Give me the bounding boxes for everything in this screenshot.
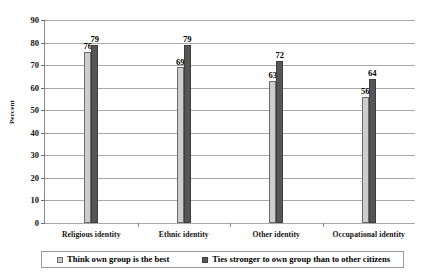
y-axis-tick-label: 10 — [31, 196, 40, 205]
bar: 79 — [184, 45, 191, 223]
chart-legend: Think own group is the bestTies stronger… — [41, 251, 404, 268]
legend-swatch-icon — [57, 257, 63, 263]
y-axis-title: Percent — [8, 82, 16, 142]
bar-group: 6979Ethnic identity — [138, 20, 231, 223]
x-axis-tick — [323, 223, 324, 227]
x-axis-category-label: Occupational identity — [333, 230, 405, 239]
y-axis-tick-label: 0 — [35, 219, 39, 228]
y-axis-tick-label: 80 — [31, 38, 40, 47]
legend-label: Ties stronger to own group than to other… — [212, 255, 390, 264]
legend-entry: Think own group is the best — [57, 255, 169, 264]
x-axis-category-label: Religious identity — [62, 230, 121, 239]
plot-area: 9080706050403020100 7679Religious identi… — [44, 20, 415, 224]
legend-entry: Ties stronger to own group than to other… — [202, 255, 390, 264]
y-axis-tick-label: 70 — [31, 61, 40, 70]
bar-group: 5664Occupational identity — [323, 20, 416, 223]
bar-value-label: 79 — [91, 35, 100, 44]
y-axis-tick — [41, 223, 45, 224]
bar: 63 — [269, 81, 276, 223]
bar-value-label: 79 — [183, 35, 192, 44]
bar-group: 6372Other identity — [230, 20, 323, 223]
y-axis-tick-label: 40 — [31, 129, 40, 138]
legend-label: Think own group is the best — [67, 255, 169, 264]
bar-value-label: 72 — [276, 51, 285, 60]
x-axis-tick — [230, 223, 231, 227]
y-axis-tick-label: 50 — [31, 106, 40, 115]
bar: 79 — [91, 45, 98, 223]
x-axis-category-label: Other identity — [253, 230, 300, 239]
bar: 76 — [84, 52, 91, 223]
bar: 56 — [362, 97, 369, 223]
y-axis-tick-label: 30 — [31, 151, 40, 160]
bar-value-label: 64 — [368, 69, 377, 78]
y-axis-tick-label: 20 — [31, 174, 40, 183]
bar-group: 7679Religious identity — [45, 20, 138, 223]
y-axis-tick-label: 60 — [31, 83, 40, 92]
x-axis-category-label: Ethnic identity — [159, 230, 209, 239]
bar: 72 — [276, 61, 283, 223]
x-axis-tick — [138, 223, 139, 227]
legend-entries: Think own group is the bestTies stronger… — [42, 255, 390, 264]
bar: 64 — [369, 79, 376, 223]
y-axis-tick-label: 90 — [31, 16, 40, 25]
legend-swatch-icon — [202, 257, 208, 263]
bar: 69 — [177, 67, 184, 223]
bar-chart: Percent 9080706050403020100 7679Religiou… — [0, 0, 442, 279]
